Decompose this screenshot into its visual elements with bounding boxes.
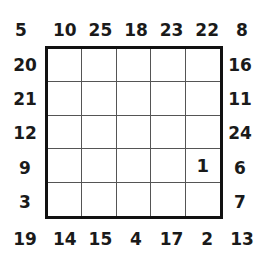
grid-cell[interactable] [82, 183, 116, 216]
grid-cell[interactable] [48, 82, 82, 115]
top-clue: 18 [121, 20, 151, 40]
right-clue: 24 [225, 123, 255, 143]
grid-cell[interactable] [151, 149, 185, 182]
bottom-clue: 15 [85, 229, 115, 249]
right-clue: 11 [225, 89, 255, 109]
left-clue: 9 [10, 158, 40, 178]
left-clue: 20 [10, 55, 40, 75]
grid-cell[interactable] [48, 149, 82, 182]
grid-cell[interactable] [151, 49, 185, 82]
grid-cell[interactable] [48, 49, 82, 82]
grid-cell[interactable] [151, 116, 185, 149]
grid-cell[interactable] [117, 183, 151, 216]
corner-clue-bottom-right: 13 [227, 229, 257, 249]
grid-cell[interactable] [151, 82, 185, 115]
grid-cell[interactable] [48, 183, 82, 216]
top-clue: 22 [192, 20, 222, 40]
grid-cell[interactable] [82, 116, 116, 149]
left-clue: 12 [10, 123, 40, 143]
grid-cell[interactable] [186, 183, 220, 216]
right-clue: 7 [225, 192, 255, 212]
bottom-clue: 4 [121, 229, 151, 249]
corner-clue-top-right: 8 [227, 20, 257, 40]
grid-cell[interactable] [117, 82, 151, 115]
grid-cell[interactable]: 1 [186, 149, 220, 182]
grid-cell[interactable] [82, 49, 116, 82]
bottom-clue: 2 [192, 229, 222, 249]
grid-cell[interactable] [117, 116, 151, 149]
puzzle-grid: 1 [45, 46, 223, 219]
grid-cell[interactable] [82, 82, 116, 115]
grid-cell[interactable] [117, 49, 151, 82]
grid-cell[interactable] [186, 82, 220, 115]
left-clue: 3 [10, 192, 40, 212]
corner-clue-top-left: 5 [6, 20, 36, 40]
grid-cell[interactable] [186, 49, 220, 82]
corner-clue-bottom-left: 19 [10, 229, 40, 249]
top-clue: 23 [157, 20, 187, 40]
grid-cell[interactable] [82, 149, 116, 182]
right-clue: 16 [225, 55, 255, 75]
grid-cell[interactable] [48, 116, 82, 149]
bottom-clue: 17 [157, 229, 187, 249]
bottom-clue: 14 [50, 229, 80, 249]
left-clue: 21 [10, 89, 40, 109]
grid-cell[interactable] [151, 183, 185, 216]
top-clue: 10 [50, 20, 80, 40]
grid-cell[interactable] [186, 116, 220, 149]
right-clue: 6 [225, 158, 255, 178]
grid-cell[interactable] [117, 149, 151, 182]
top-clue: 25 [85, 20, 115, 40]
